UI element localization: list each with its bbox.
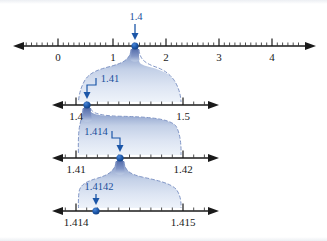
funnel-3-body [78, 161, 181, 208]
funnel-2-body [78, 108, 181, 155]
funnel-1-body [79, 49, 182, 102]
figure-canvas [0, 0, 327, 241]
axis-2-arrow-right [208, 101, 219, 109]
axis-3-point-marker [116, 154, 123, 161]
axis-2-point-marker [83, 101, 90, 108]
magnifier-funnel-2 [78, 107, 181, 155]
axis-3-arrow-right [208, 154, 219, 162]
number-line-magnification-figure: 0 1 2 3 4 1.4 1.4 1.5 1.41 1.41 1.42 1.4… [0, 0, 327, 241]
number-line-1 [13, 24, 316, 50]
axis-1-point-marker [131, 42, 138, 49]
axis-1-pointer-arrow-head [132, 33, 139, 40]
axis-4-arrow-right [208, 207, 219, 215]
magnifier-funnel-3 [78, 160, 181, 208]
axis-2-arrow-left [52, 101, 63, 109]
axis-4-arrow-left [52, 207, 63, 215]
axis-1-arrow-left [13, 42, 24, 50]
axis-4-point-marker [92, 207, 99, 214]
axis-1-arrow-right [305, 42, 316, 50]
magnifier-funnel-1 [79, 48, 182, 102]
axis-3-arrow-left [52, 154, 63, 162]
